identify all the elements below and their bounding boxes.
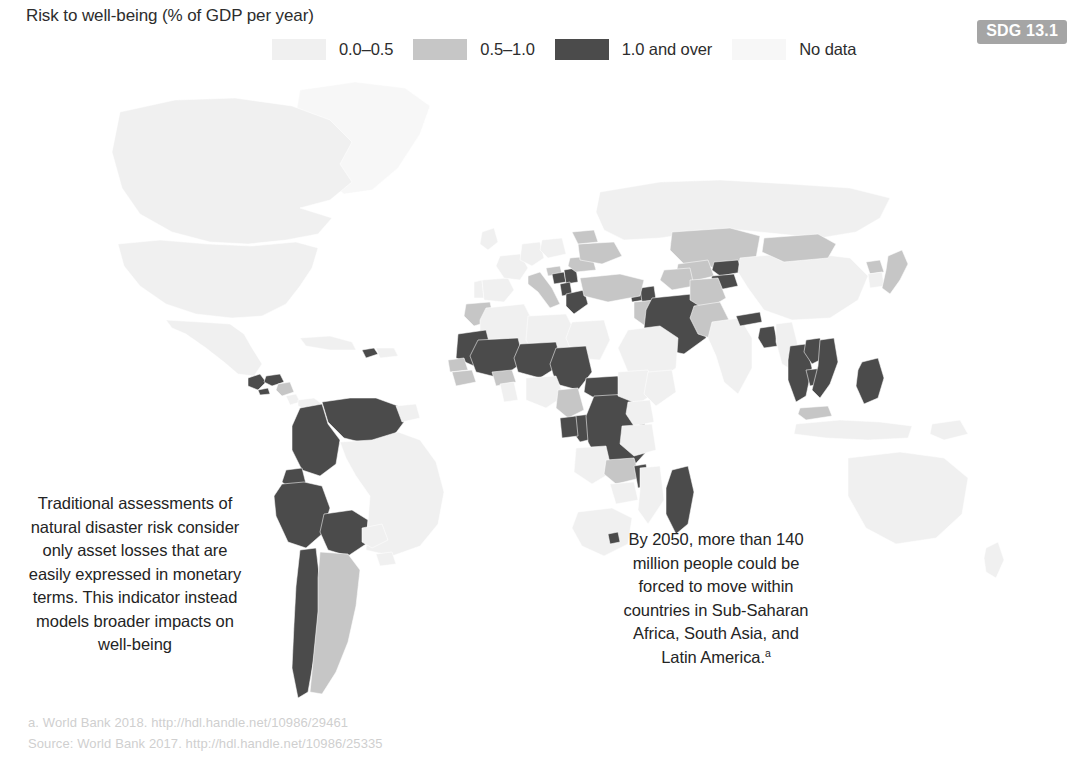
map-region	[540, 238, 566, 258]
map-region	[452, 370, 476, 386]
map-region	[248, 374, 266, 390]
map-region	[736, 312, 762, 326]
map-region	[930, 420, 968, 440]
map-region	[480, 228, 498, 250]
map-region	[572, 230, 598, 244]
map-region	[798, 406, 832, 420]
map-region	[638, 466, 664, 524]
map-region	[362, 348, 378, 358]
page-title: Risk to well-being (% of GDP per year)	[26, 6, 314, 26]
annotation-left: Traditional assessments of natural disas…	[24, 492, 246, 657]
map-region	[856, 358, 884, 404]
map-region	[300, 336, 356, 350]
map-region	[500, 382, 518, 402]
legend-label-nodata: No data	[799, 40, 856, 59]
map-region	[882, 250, 908, 294]
map-region	[758, 326, 778, 348]
map-region	[274, 482, 330, 548]
map-region	[258, 388, 270, 395]
footnotes: a. World Bank 2018. http://hdl.handle.ne…	[28, 712, 383, 754]
legend-label-mid: 0.5–1.0	[480, 40, 534, 59]
legend-item-high: 1.0 and over	[555, 37, 733, 61]
legend-swatch-low	[272, 39, 326, 60]
map-region	[666, 466, 694, 534]
annotation-right-superscript: a	[765, 646, 771, 658]
annotation-right-text: By 2050, more than 140 million people co…	[624, 530, 809, 666]
map-region	[604, 458, 640, 484]
map-region	[556, 388, 584, 418]
legend-item-nodata: No data	[732, 37, 876, 61]
map-region	[560, 416, 578, 438]
legend-swatch-mid	[413, 39, 467, 60]
legend-item-low: 0.0–0.5	[272, 37, 413, 61]
map-region	[794, 420, 912, 440]
legend-label-low: 0.0–0.5	[339, 40, 393, 59]
map-region	[848, 452, 968, 544]
map-region	[112, 98, 352, 244]
annotation-right: By 2050, more than 140 million people co…	[618, 528, 814, 669]
footnote-a: a. World Bank 2018. http://hdl.handle.ne…	[28, 712, 383, 733]
legend-swatch-high	[555, 39, 609, 60]
map-region	[578, 242, 622, 264]
map-region	[610, 482, 638, 504]
map-region	[596, 180, 890, 240]
map-region	[166, 320, 262, 376]
map-region	[738, 252, 868, 320]
footnote-source: Source: World Bank 2017. http://hdl.hand…	[28, 733, 383, 754]
map-region	[376, 348, 398, 358]
map-region	[868, 272, 884, 288]
legend-label-high: 1.0 and over	[622, 40, 713, 59]
map-region	[984, 542, 1004, 578]
legend-swatch-nodata	[732, 39, 786, 60]
sdg-badge: SDG 13.1	[977, 20, 1067, 44]
map-legend: 0.0–0.5 0.5–1.0 1.0 and over No data	[272, 37, 876, 61]
map-region	[712, 260, 742, 276]
map-region	[552, 272, 566, 284]
map-region	[118, 240, 318, 318]
map-region	[660, 268, 694, 290]
map-region	[708, 318, 752, 394]
legend-item-mid: 0.5–1.0	[413, 37, 554, 61]
map-region	[482, 278, 514, 302]
map-region	[320, 510, 368, 556]
map-region	[276, 382, 294, 396]
